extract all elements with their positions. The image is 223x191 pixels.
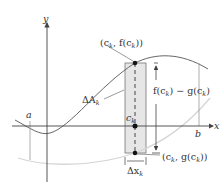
y-axis-label: y [42, 13, 49, 24]
point-g-ck [133, 151, 138, 156]
area-strip [125, 63, 146, 153]
diagram-svg: y x a b (ck, f(ck)) f(ck) − g(ck) ΔAk ck… [0, 0, 223, 191]
a-label: a [26, 109, 32, 120]
delta-x-label: Δxk [127, 165, 143, 178]
height-label: f(ck) − g(ck) [153, 85, 210, 98]
point-f-ck [133, 61, 138, 66]
area-between-curves-diagram: y x a b (ck, f(ck)) f(ck) − g(ck) ΔAk ck… [0, 0, 223, 191]
top-point-label: (ck, f(ck)) [100, 37, 143, 50]
b-label: b [195, 128, 201, 139]
bottom-point-label: (ck, g(ck)) [162, 151, 208, 164]
x-axis-label: x [214, 120, 220, 131]
delta-a-label: ΔAk [82, 94, 100, 107]
